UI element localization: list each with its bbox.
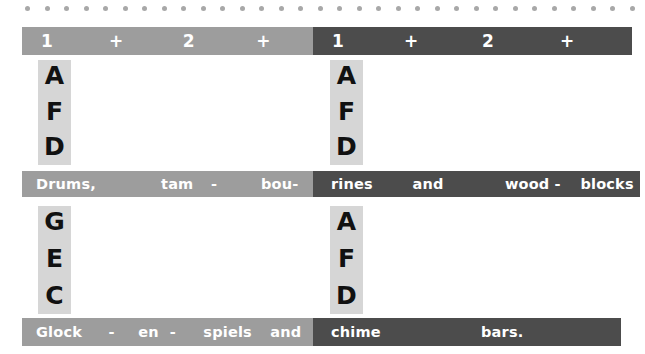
lyric-bar-right: chime bars. <box>313 318 621 346</box>
count-cell: + <box>256 31 313 51</box>
note-letter: F <box>46 99 63 124</box>
decorative-dot <box>571 6 576 11</box>
decorative-dot <box>357 6 362 11</box>
lyric-cell: - <box>170 324 203 340</box>
count-bar-right: 1 + 2 + <box>313 27 632 55</box>
note-letter: E <box>46 246 63 271</box>
lyric-cell: spiels <box>203 324 270 340</box>
note-letter: D <box>336 283 357 308</box>
decorative-dot <box>415 6 420 11</box>
decorative-dot <box>25 6 30 11</box>
lyric-bar-left: Drums, tam - bou- <box>22 171 313 197</box>
lyric-bar-right: rines and wood - blocks <box>313 171 640 197</box>
decorative-dot <box>532 6 537 11</box>
decorative-dot <box>493 6 498 11</box>
lyric-cell: en <box>138 324 170 340</box>
lyric-cell: Glock <box>36 324 109 340</box>
decorative-dot <box>201 6 206 11</box>
decorative-dot <box>435 6 440 11</box>
note-letter: D <box>336 134 357 159</box>
note-letter: A <box>337 209 356 234</box>
count-cell: 1 <box>332 31 404 51</box>
decorative-dot <box>220 6 225 11</box>
note-letter: G <box>44 209 65 234</box>
decorative-dot <box>591 6 596 11</box>
decorative-dot <box>240 6 245 11</box>
count-cell: 2 <box>482 31 560 51</box>
lyric-cell: Drums, <box>36 176 161 192</box>
lyric-cell: chime <box>331 324 481 340</box>
lyric-cell: - <box>109 324 139 340</box>
lyric-cell: rines <box>331 176 412 192</box>
decorative-dot <box>181 6 186 11</box>
count-cell: + <box>560 31 620 51</box>
decorative-dot <box>103 6 108 11</box>
lyric-cell: bars. <box>481 324 561 340</box>
decorative-dot <box>279 6 284 11</box>
decorative-dot <box>162 6 167 11</box>
lyric-cell: wood - <box>505 176 581 192</box>
dotted-rule <box>0 0 645 20</box>
decorative-dot <box>45 6 50 11</box>
lyric-cell: - <box>211 176 261 192</box>
count-cell: 2 <box>183 31 257 51</box>
note-block: G E C <box>38 206 71 314</box>
decorative-dot <box>454 6 459 11</box>
decorative-dot <box>474 6 479 11</box>
decorative-dot <box>318 6 323 11</box>
decorative-dot <box>610 6 615 11</box>
decorative-dot <box>337 6 342 11</box>
decorative-dot <box>298 6 303 11</box>
note-letter: A <box>337 63 356 88</box>
lyric-cell: bou- <box>261 176 311 192</box>
count-bar-left: 1 + 2 + <box>22 27 313 55</box>
count-cell: 1 <box>41 31 109 51</box>
note-letter: C <box>45 283 63 308</box>
decorative-dot <box>630 6 635 11</box>
lyric-cell: blocks <box>580 176 640 192</box>
decorative-dot <box>552 6 557 11</box>
decorative-dot <box>259 6 264 11</box>
note-letter: F <box>338 99 355 124</box>
note-letter: A <box>45 63 64 88</box>
decorative-dot <box>84 6 89 11</box>
decorative-dot <box>513 6 518 11</box>
lyric-cell: and <box>412 176 504 192</box>
rhythm-chart-sheet: 1 + 2 + 1 + 2 + A F D A F D Drums, tam -… <box>0 0 645 354</box>
lyric-bar-left: Glock - en - spiels and <box>22 318 313 346</box>
note-letter: F <box>338 246 355 271</box>
note-block: A F D <box>330 206 363 314</box>
decorative-dot <box>142 6 147 11</box>
lyric-cell: and <box>270 324 313 340</box>
count-cell: + <box>404 31 482 51</box>
decorative-dot <box>376 6 381 11</box>
decorative-dot <box>64 6 69 11</box>
decorative-dot <box>123 6 128 11</box>
note-letter: D <box>44 134 65 159</box>
note-block: A F D <box>330 60 363 165</box>
decorative-dot <box>396 6 401 11</box>
lyric-cell: tam <box>161 176 211 192</box>
count-cell: + <box>109 31 183 51</box>
note-block: A F D <box>38 60 71 165</box>
